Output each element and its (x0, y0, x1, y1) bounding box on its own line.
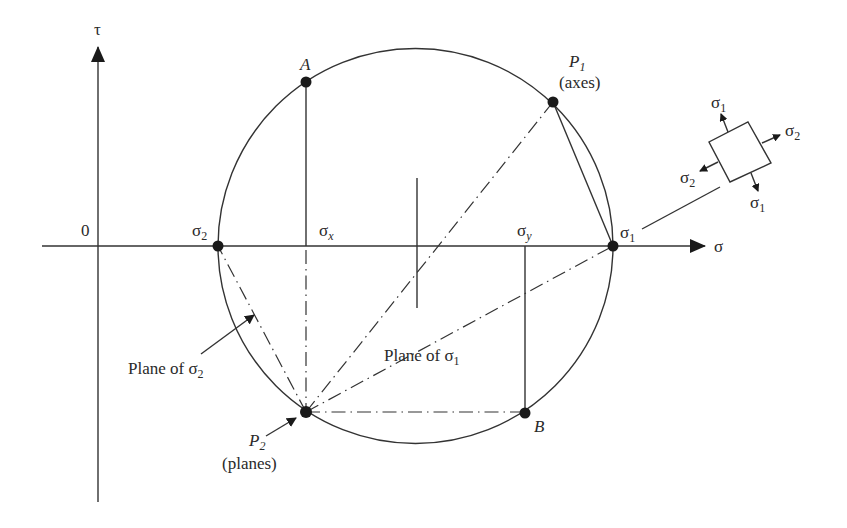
p2-pointer-arrow (266, 418, 296, 436)
point-sigma1 (608, 241, 619, 252)
label-p2-caption: (planes) (222, 454, 277, 473)
plane-of-sigma2-line (218, 246, 306, 412)
element-square (709, 122, 771, 182)
stress-element: σ1 σ2 σ2 σ1 (680, 93, 800, 215)
point-a (301, 77, 312, 88)
arrow-sigma2-left (700, 162, 718, 171)
label-p2: P2 (248, 431, 265, 453)
tau-axis-label: τ (94, 20, 101, 39)
points (213, 77, 619, 419)
label-sigma1: σ1 (620, 223, 635, 245)
point-p1 (548, 97, 559, 108)
p1-to-sigma1-line (553, 102, 613, 246)
label-plane-of-sigma2: Plane of σ2 (128, 359, 204, 381)
arrow-sigma2-right (762, 135, 780, 143)
element-label-sigma2-left: σ2 (680, 168, 695, 190)
point-sigma2 (213, 241, 224, 252)
plane-of-sigma1-line (306, 246, 613, 412)
label-p1: P1 (568, 52, 585, 74)
point-p2 (300, 406, 312, 418)
mohrs-circle-diagram: σ τ 0 A B P1 (axes) P2 (planes) (0, 0, 847, 528)
origin-label: 0 (81, 221, 90, 240)
sigma1-to-element-leader (642, 187, 720, 229)
label-a: A (299, 55, 311, 74)
p1-to-p2-line (306, 102, 553, 412)
label-sigma-x: σx (319, 221, 334, 243)
arrow-sigma1-up (721, 114, 728, 132)
axes: σ τ 0 (42, 20, 723, 502)
arrow-sigma1-down (751, 173, 758, 191)
point-b (520, 408, 531, 419)
sigma-axis-label: σ (714, 237, 723, 256)
element-label-sigma1-top: σ1 (711, 93, 726, 115)
label-p1-caption: (axes) (559, 73, 601, 92)
element-label-sigma1-bottom: σ1 (750, 193, 765, 215)
element-label-sigma2-right: σ2 (785, 121, 800, 143)
label-b: B (534, 417, 545, 436)
label-plane-of-sigma1: Plane of σ1 (384, 346, 460, 368)
label-sigma-y: σy (517, 221, 532, 243)
label-sigma2: σ2 (192, 221, 207, 243)
